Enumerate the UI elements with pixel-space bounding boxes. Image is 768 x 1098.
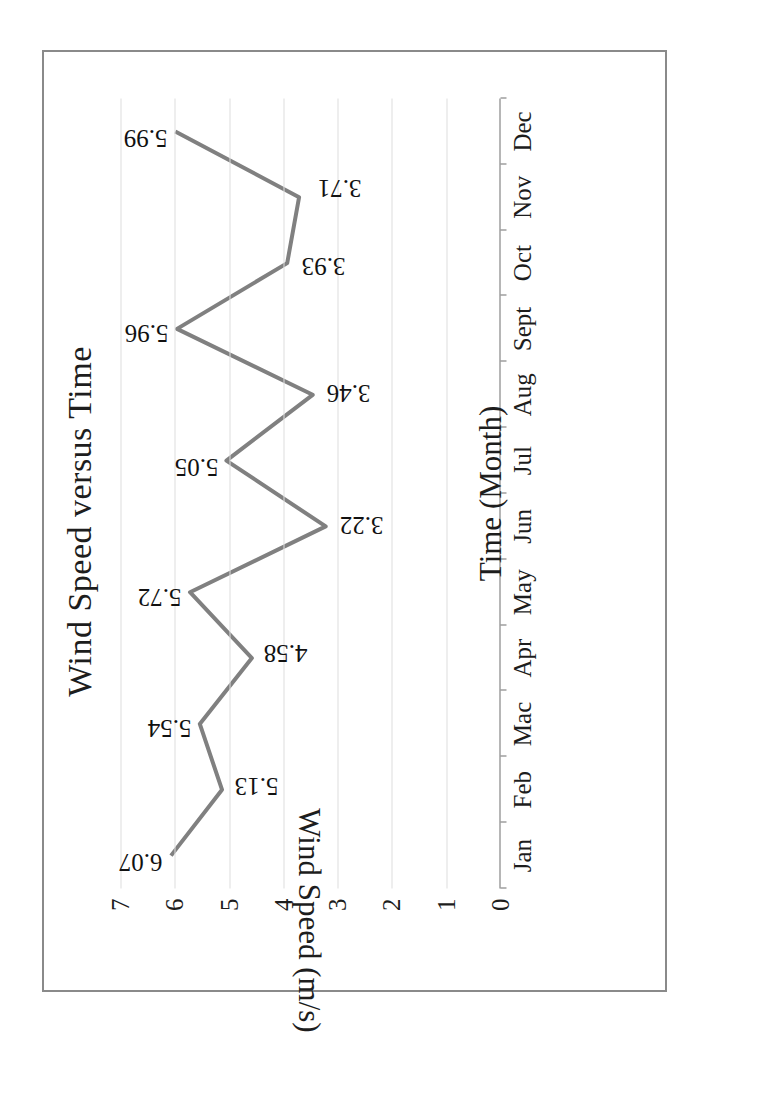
x-axis-tick-label: Dec bbox=[508, 111, 536, 151]
data-point-label: 3.46 bbox=[326, 378, 370, 406]
data-point-label: 3.93 bbox=[301, 251, 345, 279]
x-axis-tick-label: Nov bbox=[508, 175, 536, 218]
data-point-label: 6.07 bbox=[119, 847, 163, 875]
rotated-figure-wrapper: Wind Speed versus Time JanFebMacAprMayJu… bbox=[42, 50, 667, 992]
data-point-label: 5.99 bbox=[123, 123, 167, 151]
x-axis-tick-label: Jul bbox=[508, 446, 536, 475]
data-point-label: 5.72 bbox=[138, 582, 182, 610]
wind-speed-line-chart: Wind Speed versus Time JanFebMacAprMayJu… bbox=[42, 50, 667, 992]
x-axis-tick-label: Jun bbox=[508, 509, 536, 544]
x-axis-tick-label: Jan bbox=[508, 838, 536, 871]
y-axis-title: Wind Speed (m/s) bbox=[290, 730, 326, 1098]
x-axis-tick-label: Mac bbox=[508, 701, 536, 745]
page-canvas: Wind Speed versus Time JanFebMacAprMayJu… bbox=[0, 0, 768, 1098]
data-point-label: 4.58 bbox=[263, 638, 307, 666]
x-axis-tick-label: Aug bbox=[508, 373, 536, 416]
grid-line bbox=[446, 98, 447, 888]
y-axis-tick-label: 1 bbox=[432, 898, 460, 911]
x-axis-title: Time (Month) bbox=[472, 98, 508, 888]
data-point-label: 5.13 bbox=[234, 771, 278, 799]
chart-title: Wind Speed versus Time bbox=[60, 50, 98, 992]
data-point-label: 5.54 bbox=[147, 713, 191, 741]
x-axis-tick-label: May bbox=[508, 569, 536, 615]
data-point-label: 5.05 bbox=[174, 452, 218, 480]
grid-line bbox=[337, 98, 338, 888]
x-axis-tick-label: Apr bbox=[508, 638, 536, 677]
data-point-label: 3.71 bbox=[317, 173, 361, 201]
grid-line bbox=[283, 98, 284, 888]
grid-line bbox=[120, 98, 121, 888]
y-axis-tick-label: 5 bbox=[215, 898, 243, 911]
grid-line bbox=[174, 98, 175, 888]
y-axis-tick-label: 3 bbox=[323, 898, 351, 911]
data-point-label: 5.96 bbox=[125, 318, 169, 346]
y-axis-tick-label: 6 bbox=[160, 898, 188, 911]
x-axis-tick-label: Sept bbox=[508, 306, 536, 350]
y-axis-tick-label: 2 bbox=[377, 898, 405, 911]
data-point-label: 3.22 bbox=[339, 510, 383, 538]
x-axis-tick-label: Oct bbox=[508, 245, 536, 281]
y-axis-tick-label: 0 bbox=[486, 898, 514, 911]
x-axis-tick-label: Feb bbox=[508, 771, 536, 809]
grid-line bbox=[229, 98, 230, 888]
grid-line bbox=[391, 98, 392, 888]
y-axis-tick-label: 7 bbox=[106, 898, 134, 911]
